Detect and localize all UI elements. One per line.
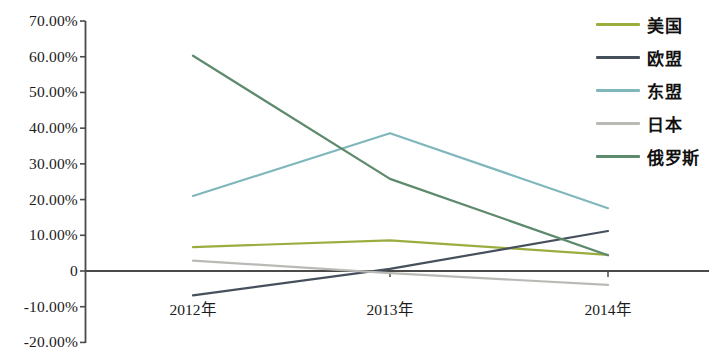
legend-color-swatch — [596, 122, 640, 125]
series-line-东盟 — [193, 133, 608, 208]
legend-item-label: 日本 — [647, 111, 682, 136]
legend-item[interactable]: 欧盟 — [596, 41, 709, 74]
legend-item[interactable]: 东盟 — [596, 74, 709, 107]
series-line-俄罗斯 — [193, 56, 608, 256]
legend-color-swatch — [596, 89, 640, 92]
legend-item-label: 欧盟 — [647, 45, 682, 70]
series-line-日本 — [193, 261, 608, 285]
legend-item[interactable]: 美国 — [596, 8, 709, 41]
legend-item[interactable]: 俄罗斯 — [596, 140, 709, 173]
legend-item-label: 东盟 — [647, 78, 682, 103]
legend-item-label: 俄罗斯 — [647, 144, 700, 169]
legend-color-swatch — [596, 23, 640, 26]
legend-color-swatch — [596, 155, 640, 158]
legend-item[interactable]: 日本 — [596, 107, 709, 140]
legend-color-swatch — [596, 56, 640, 59]
legend-item-label: 美国 — [647, 12, 682, 37]
data-series-group — [193, 56, 608, 296]
legend: 美国欧盟东盟日本俄罗斯 — [596, 8, 709, 173]
